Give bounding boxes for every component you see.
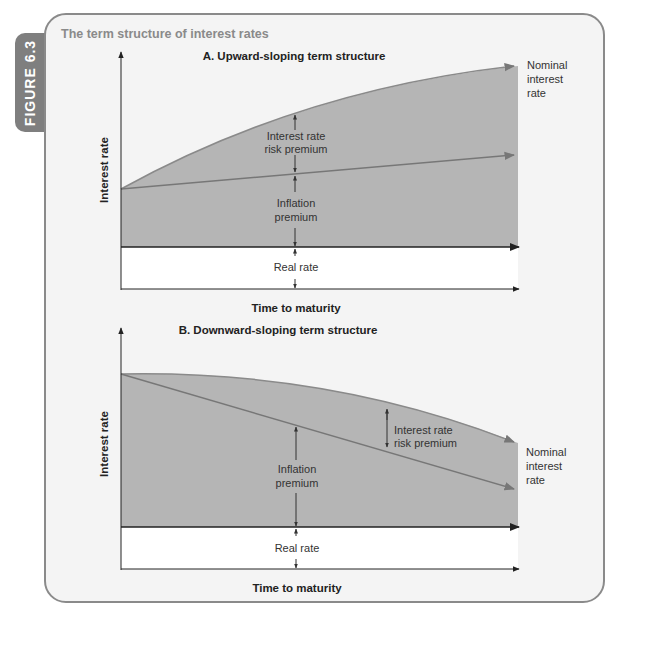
panel-a-real-rate-region xyxy=(121,247,518,289)
panel-a-y-axis-label: Interest rate xyxy=(98,137,110,203)
panel-b-nominal-label-3: rate xyxy=(526,474,545,486)
panel-b-risk-label-2: risk premium xyxy=(394,437,457,449)
panel-b-inflation-label-1: Inflation xyxy=(278,463,317,475)
panel-b-title: B. Downward-sloping term structure xyxy=(179,324,378,336)
panel-b-inflation-label-2: premium xyxy=(276,477,319,489)
panel-a-title: A. Upward-sloping term structure xyxy=(203,50,386,62)
panel-a-x-axis-label: Time to maturity xyxy=(251,302,341,314)
term-structure-charts: A. Upward-sloping term structure Nominal… xyxy=(0,0,646,645)
panel-b-risk-label-1: Interest rate xyxy=(394,424,453,436)
panel-a-upward: A. Upward-sloping term structure Nominal… xyxy=(98,50,567,314)
panel-b-nominal-label-2: interest xyxy=(526,460,562,472)
panel-a-nominal-label-1: Nominal xyxy=(527,59,567,71)
panel-b-x-axis-label: Time to maturity xyxy=(252,582,342,594)
panel-a-risk-label-1: Interest rate xyxy=(267,130,326,142)
panel-a-nominal-label-3: rate xyxy=(527,87,546,99)
panel-b-nominal-label-1: Nominal xyxy=(526,446,566,458)
panel-a-risk-label-2: risk premium xyxy=(265,143,328,155)
panel-a-inflation-label-2: premium xyxy=(275,211,318,223)
panel-a-inflation-label-1: Inflation xyxy=(277,197,316,209)
panel-b-downward: B. Downward-sloping term structure Inter… xyxy=(98,324,566,594)
panel-b-real-rate-region xyxy=(121,527,518,569)
panel-a-real-rate-label: Real rate xyxy=(274,261,319,273)
panel-a-nominal-label-2: interest xyxy=(527,73,563,85)
panel-b-real-rate-label: Real rate xyxy=(275,542,320,554)
panel-b-y-axis-label: Interest rate xyxy=(98,411,110,477)
panel-b-shaded-area xyxy=(121,374,518,527)
panel-a-shaded-area xyxy=(121,66,518,247)
